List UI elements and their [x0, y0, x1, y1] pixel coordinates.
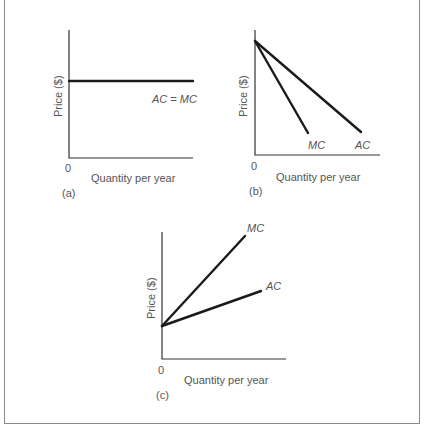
- curve-label-mc: MC: [308, 139, 325, 151]
- x-axis-label: Quantity per year: [91, 172, 176, 184]
- axes-c: [162, 232, 286, 359]
- y-axis-label: Price ($): [52, 75, 64, 117]
- panel-c: MC AC Price ($) 0 Quantity per year (c): [145, 222, 286, 401]
- origin-label: 0: [158, 364, 164, 376]
- panel-a: AC = MC Price ($) 0 Quantity per year (a…: [52, 30, 197, 199]
- y-axis-label: Price ($): [237, 75, 249, 117]
- figure-canvas: AC = MC Price ($) 0 Quantity per year (a…: [0, 0, 425, 429]
- curve-label-mc: MC: [247, 222, 264, 234]
- x-axis-label: Quantity per year: [276, 171, 361, 183]
- origin-label: 0: [251, 160, 257, 172]
- y-axis-label: Price ($): [145, 277, 157, 319]
- curve-ac: [255, 41, 361, 132]
- panel-caption: (c): [156, 389, 169, 401]
- curve-label-ac-mc: AC = MC: [151, 93, 197, 105]
- curve-label-ac: AC: [265, 280, 281, 292]
- curve-mc: [255, 41, 308, 133]
- panel-b: MC AC Price ($) 0 Quantity per year (b): [237, 30, 380, 197]
- panel-caption: (b): [249, 185, 262, 197]
- axes-b: [255, 30, 380, 155]
- panel-caption: (a): [62, 187, 75, 199]
- curve-label-ac: AC: [354, 139, 370, 151]
- origin-label: 0: [65, 162, 71, 174]
- x-axis-label: Quantity per year: [184, 374, 269, 386]
